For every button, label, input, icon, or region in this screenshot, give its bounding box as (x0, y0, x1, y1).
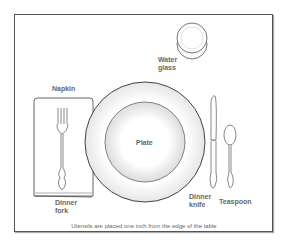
dinner-knife-icon (210, 96, 217, 188)
dinner-fork-label-line-2: fork (55, 207, 77, 215)
water-glass-label-line-1: Water (158, 56, 177, 64)
water-glass-label: Water glass (158, 56, 177, 72)
dinner-knife-label-line-2: knife (189, 201, 211, 209)
teaspoon-icon (224, 125, 236, 188)
water-glass-label-line-2: glass (158, 64, 177, 72)
teaspoon-label: Teaspoon (219, 198, 252, 206)
caption: Utensils are placed one inch from the ed… (0, 223, 288, 229)
plate-label: Plate (136, 139, 153, 147)
place-setting-illustration (0, 0, 288, 246)
dinner-knife-label-line-1: Dinner (189, 193, 211, 201)
napkin-label: Napkin (52, 85, 75, 93)
water-glass-icon (177, 23, 207, 59)
dinner-knife-label: Dinner knife (189, 193, 211, 209)
dinner-fork-label: Dinner fork (55, 199, 77, 215)
dinner-fork-label-line-1: Dinner (55, 199, 77, 207)
